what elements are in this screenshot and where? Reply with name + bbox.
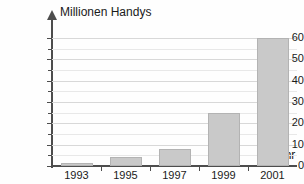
y-tick-mark-minor	[48, 70, 52, 71]
y-tick-mark	[47, 166, 52, 167]
y-axis-title: Millionen Handys	[60, 5, 151, 19]
x-tick-label-1993: 1993	[54, 169, 100, 181]
y-tick-mark-minor	[48, 113, 52, 114]
y-tick-mark	[47, 38, 52, 39]
x-tick-label-1999: 1999	[201, 169, 247, 181]
y-tick-mark	[47, 145, 52, 146]
y-tick-mark	[47, 59, 52, 60]
bar-1997	[159, 149, 191, 166]
bar-chart: Millionen Handys Jahr 0102030405060 1993…	[0, 0, 304, 184]
bar-1995	[110, 157, 142, 166]
y-tick-mark-minor	[48, 91, 52, 92]
y-tick-mark	[47, 123, 52, 124]
y-tick-label: 40	[258, 75, 304, 86]
y-tick-mark	[47, 81, 52, 82]
y-tick-mark-minor	[48, 49, 52, 50]
y-tick-mark-minor	[48, 155, 52, 156]
x-tick-label-2001: 2001	[250, 169, 296, 181]
y-tick-label: 60	[258, 32, 304, 43]
y-tick-label: 30	[258, 96, 304, 107]
bar-1993	[61, 163, 93, 166]
y-tick-mark	[47, 102, 52, 103]
x-tick-label-1997: 1997	[152, 169, 198, 181]
y-tick-label: 50	[258, 53, 304, 64]
y-tick-mark-minor	[48, 134, 52, 135]
bar-1999	[208, 113, 240, 166]
y-tick-label: 20	[258, 117, 304, 128]
y-tick-label: 10	[258, 139, 304, 150]
x-tick-label-1995: 1995	[103, 169, 149, 181]
